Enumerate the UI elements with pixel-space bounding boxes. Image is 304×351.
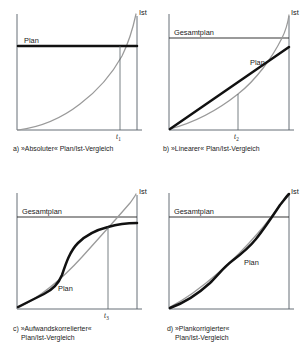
panel-a-ist-label: Ist <box>139 8 147 17</box>
panel-c-plan-curve <box>18 223 137 307</box>
panel-a-axes <box>17 14 142 130</box>
panel-b-gesamtplan-label: Gesamtplan <box>174 28 214 37</box>
panel-c-caption-line1: c) »Aufwandskorrelierter« <box>13 325 92 333</box>
panel-c-caption-line2: Plan/Ist-Vergleich <box>21 334 75 342</box>
panel-a: Plan Ist t1 a) »Absoluter« Plan/Ist-Verg… <box>0 0 152 176</box>
panel-a-plan-label: Plan <box>24 36 39 45</box>
panel-d-caption-line1: d) »Plankorrigierter« <box>167 325 230 333</box>
panel-b: Gesamtplan Plan Ist t2 b) »Linearer« Pla… <box>152 0 304 176</box>
panel-c-plan-label: Plan <box>58 284 73 293</box>
panel-b-tick-label: t2 <box>234 133 239 142</box>
panel-c-ist-label: Ist <box>139 187 147 196</box>
panel-b-ist-label: Ist <box>291 8 299 17</box>
panel-a-ist-curve <box>18 14 136 130</box>
panel-b-plan-line <box>170 47 289 129</box>
panel-d-ist-label: Ist <box>291 187 299 196</box>
panel-a-tick-label: t1 <box>116 133 121 142</box>
panel-c-tick-label: t3 <box>104 312 109 321</box>
panel-b-caption: b) »Linearer« Plan/Ist-Vergleich <box>163 145 260 153</box>
plan-ist-comparison-figure: Plan Ist t1 a) »Absoluter« Plan/Ist-Verg… <box>0 0 304 351</box>
panel-d-plan-label: Plan <box>244 258 259 267</box>
panel-a-caption: a) »Absoluter« Plan/Ist-Vergleich <box>13 145 114 153</box>
panel-c: Gesamtplan Plan Ist t3 c) »Aufwandskorre… <box>0 175 152 351</box>
panel-c-gesamtplan-label: Gesamtplan <box>22 207 62 216</box>
panel-d: Gesamtplan Plan Ist d) »Plankorrigierter… <box>152 175 304 351</box>
panel-b-plan-label: Plan <box>250 58 265 67</box>
panel-d-caption-line2: Plan/Ist-Vergleich <box>175 334 229 342</box>
panel-d-gesamtplan-label: Gesamtplan <box>174 207 214 216</box>
